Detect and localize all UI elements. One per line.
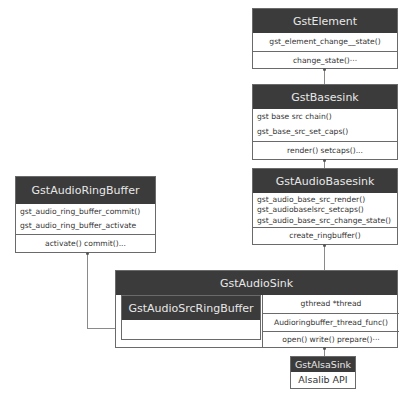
class-title: GstAudioBasesink <box>253 169 397 193</box>
class-vmethods: create_ringbuffer() <box>253 227 397 244</box>
class-function: gst_base_src_set_caps() <box>253 125 397 141</box>
class-gst-alsa-sink: GstAlsaSink Alsalib API <box>290 356 356 389</box>
class-title: GstAudioSrcRingBuffer <box>122 296 260 320</box>
class-gst-audio-src-ring-buffer: GstAudioSrcRingBuffer <box>121 295 261 340</box>
members-panel: gthread *thread Audioringbuffer_thread_f… <box>262 295 399 348</box>
class-title: GstAudioSink <box>116 271 397 295</box>
class-gst-audio-ring-buffer: GstAudioRingBuffer gst_audio_ring_buffer… <box>15 176 156 253</box>
arrow-head <box>323 159 326 162</box>
class-function: gst base src chain() <box>253 109 397 125</box>
class-function: gst_audio_base_src_change_state() <box>253 215 397 227</box>
class-gst-element: GstElement gst_element_change__state() c… <box>252 8 398 69</box>
class-function: gst_audio_base_src_render() <box>253 193 397 204</box>
edge-srcringbuffer-ringbuffer <box>87 253 88 329</box>
arrow-head <box>323 347 326 350</box>
class-gst-audio-basesink: GstAudioBasesink gst_audio_base_src_rend… <box>252 168 398 245</box>
class-title: GstElement <box>253 9 397 33</box>
arrow-head <box>323 244 326 247</box>
class-vmethods: change_state()··· <box>253 51 397 69</box>
class-function: gst_audio_ring_buffer_commit() <box>16 204 155 219</box>
class-title: GstAlsaSink <box>291 357 355 372</box>
class-function: gst_audiobaselsrc_setcaps() <box>253 204 397 215</box>
class-function: gst_audio_ring_buffer_activate <box>16 219 155 234</box>
class-vmethods: open() write() prepare()··· <box>263 331 399 348</box>
class-vmethods: render() setcaps()... <box>253 141 397 159</box>
class-vmethods: activate() commit()... <box>16 234 155 252</box>
arrow-head <box>86 252 89 255</box>
arrow-head <box>323 68 326 71</box>
edge-audiosink-audiobasesink <box>324 245 325 270</box>
edge-basesink-element <box>324 69 325 84</box>
class-member: gthread *thread <box>263 295 399 313</box>
class-api: Alsalib API <box>291 372 355 388</box>
class-function: gst_element_change__state() <box>253 33 397 51</box>
class-title: GstBasesink <box>253 85 397 109</box>
class-title: GstAudioRingBuffer <box>16 177 155 204</box>
class-member: Audioringbuffer_thread_func() <box>263 313 399 331</box>
class-gst-audio-sink: GstAudioSink GstAudioSrcRingBuffer gthre… <box>115 270 398 348</box>
class-gst-basesink: GstBasesink gst base src chain() gst_bas… <box>252 84 398 160</box>
